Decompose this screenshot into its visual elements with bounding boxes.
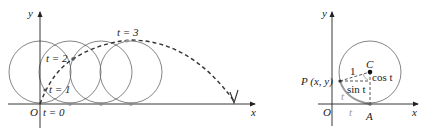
- y-axis-label: y: [27, 7, 33, 19]
- t3-label: t = 3: [117, 26, 139, 38]
- point-a-label: A: [365, 110, 373, 122]
- rolling-circles: [9, 41, 162, 103]
- x-axis-label: x: [250, 106, 256, 118]
- point-a: [368, 102, 372, 106]
- y-axis-label-right: y: [321, 7, 327, 19]
- diagram-canvas: y x O t = 0 t = 1 t = 2 t = 3 y x O A C …: [0, 0, 423, 133]
- point-p: [338, 79, 341, 82]
- arc-t-label: t: [341, 90, 345, 102]
- radius-label: 1: [350, 65, 356, 77]
- t2-label: t = 2: [46, 52, 68, 64]
- left-panel: y x O t = 0 t = 1 t = 2 t = 3: [8, 7, 256, 128]
- curve-arrowhead-icon: [230, 90, 238, 103]
- t1-label: t = 1: [49, 83, 70, 95]
- diagram-svg: y x O t = 0 t = 1 t = 2 t = 3 y x O A C …: [0, 0, 423, 133]
- origin-label-right: O: [323, 106, 331, 118]
- x-axis-label-right: x: [411, 106, 417, 118]
- circle-t3: [100, 41, 162, 103]
- angle-arc: [363, 74, 368, 80]
- t0-label: t = 0: [43, 106, 65, 118]
- sin-label: sin t: [347, 83, 366, 95]
- origin-label: O: [30, 106, 38, 118]
- point-p-label: P (x, y): [300, 75, 333, 88]
- right-panel: y x O A C P (x, y) 1 cos t sin t t t: [300, 7, 418, 126]
- cos-label: cos t: [372, 71, 392, 83]
- base-t-label: t: [349, 106, 353, 118]
- point-c-label: C: [366, 58, 374, 70]
